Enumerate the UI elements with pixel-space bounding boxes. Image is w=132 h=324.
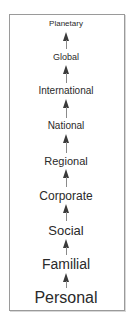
level-corporate: Corporate xyxy=(0,190,132,202)
level-planetary: Planetary xyxy=(0,20,132,28)
arrow-shaft xyxy=(66,142,67,153)
arrow-shaft xyxy=(66,212,67,221)
arrow-shaft xyxy=(66,40,67,49)
level-social: Social xyxy=(0,224,132,237)
arrow-shaft xyxy=(66,247,67,255)
arrow-shaft xyxy=(66,281,67,288)
level-international: International xyxy=(0,86,132,96)
arrow-shaft xyxy=(66,177,67,187)
level-global: Global xyxy=(0,53,132,62)
level-regional: Regional xyxy=(0,156,132,167)
arrow-shaft xyxy=(66,107,67,118)
arrow-shaft xyxy=(66,73,67,83)
level-familial: Familial xyxy=(0,257,132,271)
level-national: National xyxy=(0,121,132,131)
level-personal: Personal xyxy=(0,290,132,306)
